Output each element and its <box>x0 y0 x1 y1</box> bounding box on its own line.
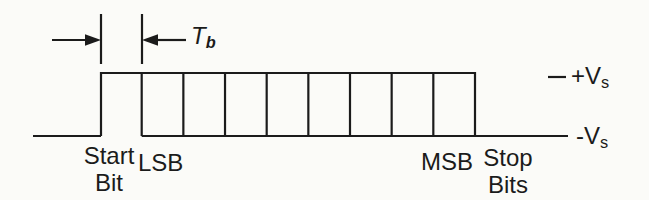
start-bit-label: Start Bit <box>80 142 138 196</box>
low-level-subscript: s <box>600 133 608 151</box>
bit-time-arrowhead-right-icon <box>85 34 101 46</box>
bit-time-arrowhead-left-icon <box>142 34 158 46</box>
bit-time-subscript: b <box>206 33 216 51</box>
start-bit-label-line2: Bit <box>80 169 138 196</box>
msb-label: MSB <box>421 150 473 174</box>
waveform-outline <box>101 73 475 136</box>
bit-time-label: Tb <box>191 24 216 50</box>
serial-data-timing-diagram: Tb Start Bit LSB MSB Stop Bits +Vs -Vs <box>0 0 649 200</box>
stop-bits-label: Stop Bits <box>480 144 536 198</box>
high-level-subscript: s <box>601 73 609 91</box>
stop-bits-label-line2: Bits <box>480 171 536 198</box>
stop-bits-label-line1: Stop <box>480 144 536 171</box>
high-level-symbol: +V <box>571 62 601 89</box>
high-level-label: +Vs <box>571 64 609 90</box>
low-level-symbol: -V <box>576 122 600 149</box>
start-bit-label-line1: Start <box>80 142 138 169</box>
bit-time-symbol: T <box>191 22 206 49</box>
waveform-bit-dividers <box>142 73 434 136</box>
lsb-label: LSB <box>138 151 183 175</box>
low-level-label: -Vs <box>576 124 608 150</box>
